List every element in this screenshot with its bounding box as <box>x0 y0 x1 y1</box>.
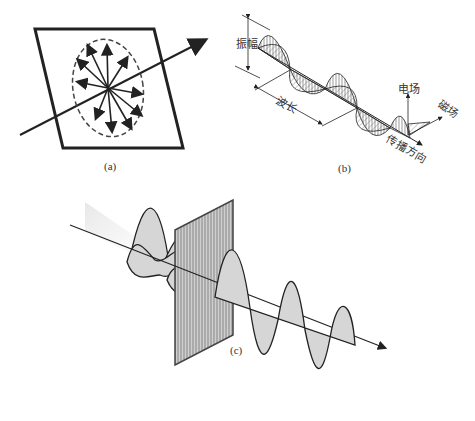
caption-a: (a) <box>104 160 116 172</box>
caption-c: (c) <box>230 344 242 356</box>
panel-b: 振幅 波长 电场 磁场 传播方向 (b) <box>230 0 475 190</box>
caption-b: (b) <box>338 162 351 174</box>
panel-a: (a) <box>0 0 230 190</box>
panel-c: (c) <box>60 190 420 421</box>
label-electric-field: 电场 <box>398 80 420 96</box>
label-amplitude: 振幅 <box>236 35 258 51</box>
polarizer-diagram <box>60 190 420 421</box>
em-wave-diagram <box>230 0 475 190</box>
